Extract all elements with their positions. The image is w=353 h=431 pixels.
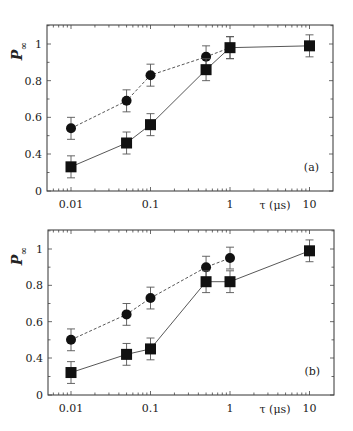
panel-label: (b) xyxy=(304,365,320,378)
y-tick-label: 0.4 xyxy=(25,148,43,161)
square-marker xyxy=(201,276,212,287)
chart: 00.40.60.810.010.1110τ (μs)P∞(a)00.40.60… xyxy=(0,0,353,431)
svg-text:∞: ∞ xyxy=(18,42,29,50)
square-marker xyxy=(121,138,132,149)
y-tick-label: 1 xyxy=(35,38,42,51)
y-tick-label: 0 xyxy=(36,389,43,402)
square-marker xyxy=(121,349,132,360)
square-marker xyxy=(145,343,156,354)
y-tick-label: 0.4 xyxy=(26,352,44,365)
panel-label: (a) xyxy=(304,161,319,174)
y-tick-label: 0 xyxy=(35,185,42,198)
square-marker xyxy=(66,161,77,172)
square-marker xyxy=(225,42,236,53)
circle-marker xyxy=(122,96,132,106)
series-line xyxy=(71,251,310,373)
x-tick-label: 10 xyxy=(303,198,317,211)
square-marker xyxy=(225,276,236,287)
series-line xyxy=(71,46,310,167)
svg-text:∞: ∞ xyxy=(18,247,29,255)
panel-a: 00.40.60.810.010.1110τ (μs)P∞(a) xyxy=(9,25,333,212)
x-tick-label: 0.1 xyxy=(142,402,160,415)
circle-marker xyxy=(146,70,156,80)
y-tick-label: 0.8 xyxy=(25,75,43,88)
y-axis-label: P∞ xyxy=(9,42,29,61)
y-tick-label: 0.8 xyxy=(26,279,44,292)
y-axis-label: P∞ xyxy=(9,247,29,266)
plot-frame xyxy=(47,25,333,191)
square-marker xyxy=(304,245,315,256)
circle-marker xyxy=(225,253,235,263)
y-tick-label: 0.6 xyxy=(25,111,43,124)
square-marker xyxy=(145,119,156,130)
x-axis-label: τ (μs) xyxy=(260,403,291,416)
y-tick-label: 1 xyxy=(36,243,43,256)
x-tick-label: 0.01 xyxy=(59,402,84,415)
x-tick-label: 1 xyxy=(227,402,234,415)
x-tick-label: 0.01 xyxy=(59,198,84,211)
panel-b: 00.40.60.810.010.1110τ (μs)P∞(b) xyxy=(9,230,334,416)
x-axis-label: τ (μs) xyxy=(260,199,291,212)
square-marker xyxy=(201,64,212,75)
y-tick-label: 0.6 xyxy=(26,316,44,329)
square-marker xyxy=(66,367,77,378)
plot-frame xyxy=(48,230,334,395)
circle-marker xyxy=(122,309,132,319)
x-tick-label: 0.1 xyxy=(142,198,160,211)
circle-marker xyxy=(66,335,76,345)
square-marker xyxy=(304,40,315,51)
circle-marker xyxy=(66,123,76,133)
x-tick-label: 1 xyxy=(227,198,234,211)
x-tick-label: 10 xyxy=(303,402,317,415)
circle-marker xyxy=(146,293,156,303)
